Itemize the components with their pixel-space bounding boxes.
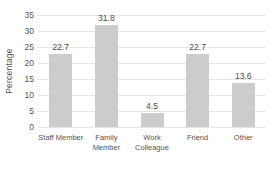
category-label: Other bbox=[220, 133, 266, 143]
y-tick-label: 0 bbox=[0, 122, 34, 132]
category-label: Staff Member bbox=[38, 133, 84, 143]
y-tick-label: 5 bbox=[0, 106, 34, 116]
bar-value-label: 22.7 bbox=[38, 42, 84, 52]
plot-area: 22.731.84.522.713.6 bbox=[38, 15, 266, 127]
bar-value-label: 13.6 bbox=[220, 71, 266, 81]
bar bbox=[186, 54, 209, 127]
gridline bbox=[38, 15, 266, 16]
bar bbox=[95, 25, 118, 127]
gridline bbox=[38, 31, 266, 32]
category-label: Family Member bbox=[84, 133, 130, 152]
y-tick-label: 15 bbox=[0, 74, 34, 84]
y-tick-label: 30 bbox=[0, 26, 34, 36]
bar-value-label: 4.5 bbox=[129, 101, 175, 111]
y-tick-label: 10 bbox=[0, 90, 34, 100]
category-label: Friend bbox=[175, 133, 221, 143]
bar bbox=[141, 113, 164, 127]
bar-value-label: 22.7 bbox=[175, 42, 221, 52]
bar bbox=[49, 54, 72, 127]
y-tick-label: 20 bbox=[0, 58, 34, 68]
bar-value-label: 31.8 bbox=[84, 13, 130, 23]
y-tick-label: 35 bbox=[0, 10, 34, 20]
bar bbox=[232, 83, 255, 127]
category-label: Work Colleague bbox=[129, 133, 175, 152]
bar-chart: Percentage 05101520253035 22.731.84.522.… bbox=[0, 0, 272, 170]
y-tick-label: 25 bbox=[0, 42, 34, 52]
